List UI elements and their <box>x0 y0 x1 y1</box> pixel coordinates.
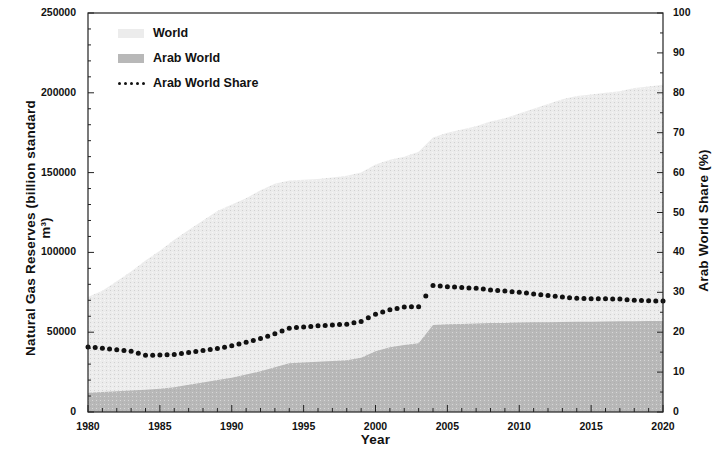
legend-item: Arab World Share <box>118 76 258 90</box>
share-dot <box>172 352 177 357</box>
share-dot <box>179 351 184 356</box>
share-dot <box>452 285 457 290</box>
share-dot <box>287 326 292 331</box>
y-tick-label-right: 90 <box>673 46 713 58</box>
y-tick-label-left: 100000 <box>0 245 76 257</box>
share-dot <box>395 306 400 311</box>
share-dot <box>574 296 579 301</box>
share-dot <box>653 298 658 303</box>
x-tick-label: 1990 <box>207 420 257 432</box>
share-dot <box>229 343 234 348</box>
share-dot <box>524 291 529 296</box>
y-tick-label-right: 40 <box>673 245 713 257</box>
share-dot <box>208 347 213 352</box>
share-dot <box>201 348 206 353</box>
plot-canvas <box>0 0 714 458</box>
share-dot <box>466 285 471 290</box>
share-dot <box>280 329 285 334</box>
share-dot <box>581 296 586 301</box>
y-tick-label-left: 50000 <box>0 325 76 337</box>
share-dot <box>121 348 126 353</box>
share-dot <box>244 340 249 345</box>
share-dot <box>625 297 630 302</box>
share-dot <box>639 298 644 303</box>
share-dot <box>366 315 371 320</box>
share-dot <box>301 325 306 330</box>
chart-figure: Natural Gas Reserves (billion standard m… <box>0 0 714 458</box>
share-dot <box>380 310 385 315</box>
x-axis-title: Year <box>88 432 663 447</box>
share-dot <box>416 304 421 309</box>
share-dot <box>359 319 364 324</box>
legend-swatch-icon <box>118 54 144 63</box>
share-dot <box>538 292 543 297</box>
share-dot <box>567 295 572 300</box>
share-dot <box>423 294 428 299</box>
share-dot <box>409 304 414 309</box>
share-dot <box>445 284 450 289</box>
y-tick-label-right: 60 <box>673 166 713 178</box>
share-dot <box>438 284 443 289</box>
share-dot <box>136 351 141 356</box>
share-dot <box>222 345 227 350</box>
share-dot <box>107 346 112 351</box>
share-dot <box>431 283 436 288</box>
share-dot <box>165 352 170 357</box>
x-tick-label: 2000 <box>351 420 401 432</box>
y-tick-label-left: 150000 <box>0 166 76 178</box>
y-tick-label-right: 80 <box>673 86 713 98</box>
share-dot <box>632 298 637 303</box>
share-dot <box>143 353 148 358</box>
share-dot <box>474 286 479 291</box>
share-dot <box>488 287 493 292</box>
x-tick-label: 2020 <box>638 420 688 432</box>
share-dot <box>93 345 98 350</box>
share-dot <box>129 349 134 354</box>
y-tick-label-left: 200000 <box>0 86 76 98</box>
y-tick-label-right: 100 <box>673 6 713 18</box>
share-dot <box>251 338 256 343</box>
share-dot <box>265 334 270 339</box>
share-dot <box>272 331 277 336</box>
legend-label: Arab World Share <box>153 76 258 90</box>
share-dot <box>617 297 622 302</box>
x-tick-label: 2005 <box>422 420 472 432</box>
share-dot <box>294 325 299 330</box>
share-dot <box>510 289 515 294</box>
share-dot <box>502 289 507 294</box>
legend-item: World <box>118 26 188 40</box>
share-dot <box>387 307 392 312</box>
share-dot <box>100 346 105 351</box>
y-axis-left-title: Natural Gas Reserves (billion standard m… <box>23 98 53 358</box>
share-dot <box>316 323 321 328</box>
share-dot <box>596 296 601 301</box>
share-dot <box>553 294 558 299</box>
y-tick-label-left: 0 <box>0 405 76 417</box>
share-dot <box>186 350 191 355</box>
y-tick-label-right: 0 <box>673 405 713 417</box>
share-dot <box>157 352 162 357</box>
x-tick-label: 1995 <box>279 420 329 432</box>
x-tick-label: 1980 <box>63 420 113 432</box>
x-tick-label: 1985 <box>135 420 185 432</box>
legend-dotted-line-icon <box>118 79 144 88</box>
share-dot <box>603 296 608 301</box>
area-series-group <box>88 85 663 412</box>
share-dot <box>344 322 349 327</box>
legend-label: Arab World <box>153 51 220 65</box>
share-dot <box>646 298 651 303</box>
share-dot <box>495 288 500 293</box>
legend-item: Arab World <box>118 51 220 65</box>
share-dot <box>337 322 342 327</box>
x-tick-label: 2015 <box>566 420 616 432</box>
share-dot <box>546 293 551 298</box>
y-tick-label-left: 250000 <box>0 6 76 18</box>
legend-swatch-icon <box>118 29 144 38</box>
share-dot <box>481 287 486 292</box>
y-tick-label-right: 20 <box>673 325 713 337</box>
y-tick-label-right: 30 <box>673 285 713 297</box>
share-dot <box>589 296 594 301</box>
share-dot <box>351 320 356 325</box>
y-tick-label-right: 10 <box>673 365 713 377</box>
share-dot <box>531 291 536 296</box>
